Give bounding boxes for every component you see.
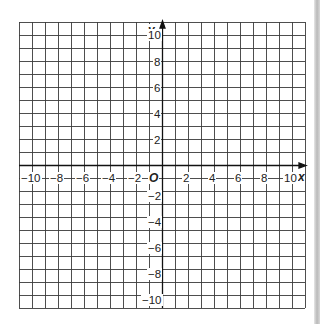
y-tick-label: −8 — [147, 268, 162, 280]
y-tick-label: −2 — [147, 190, 162, 202]
x-tick-label: −2 — [127, 172, 142, 184]
y-tick-label: 10 — [147, 29, 162, 41]
x-tick-label: −6 — [75, 172, 90, 184]
y-tick-label: −10 — [141, 294, 163, 306]
x-tick-label: −8 — [49, 172, 64, 184]
x-tick-label: 6 — [234, 172, 242, 184]
y-tick-label: 4 — [153, 108, 161, 120]
y-tick-label: 8 — [153, 56, 161, 68]
x-tick-label: 2 — [182, 172, 190, 184]
y-tick-label: −6 — [147, 242, 162, 254]
y-tick-label: −4 — [147, 216, 162, 228]
x-tick-label: −10 — [20, 172, 42, 184]
x-axis-arrow-icon — [299, 163, 306, 168]
x-tick-label: 8 — [260, 172, 268, 184]
y-tick-label: 6 — [153, 82, 161, 94]
axes — [19, 21, 306, 308]
x-tick-label: −4 — [101, 172, 116, 184]
page-edge-shadow — [314, 0, 320, 324]
x-tick-label: 10 — [283, 172, 298, 184]
x-tick-label: 4 — [208, 172, 216, 184]
x-axis-name: x — [298, 171, 305, 183]
origin-label: O — [148, 172, 159, 184]
y-tick-label: 2 — [153, 134, 161, 146]
